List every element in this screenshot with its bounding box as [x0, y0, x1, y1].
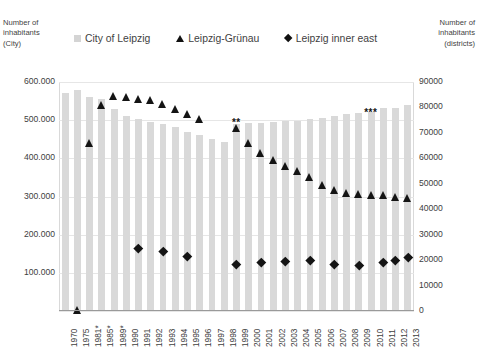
right-axis-tick-label: 90000 — [419, 76, 473, 86]
x-axis-tick-label: 2008 — [350, 329, 360, 347]
x-axis-tick-label: 1997 — [216, 329, 226, 347]
chart-legend: City of LeipzigLeipzig-GrünauLeipzig inn… — [74, 29, 384, 47]
x-axis-tick-label: 2012 — [399, 329, 409, 347]
right-axis-tick-label: 30000 — [419, 229, 473, 239]
x-axis-tick-label: 1993 — [167, 329, 177, 347]
triangle-marker — [330, 186, 338, 194]
left-axis-tick-label: 500.000 — [5, 114, 55, 124]
right-axis-tick-label: 40000 — [419, 203, 473, 213]
bar — [172, 127, 179, 311]
bar — [62, 93, 69, 311]
bar — [98, 99, 105, 311]
triangle-marker — [85, 139, 93, 147]
bar — [282, 121, 289, 311]
triangle-marker — [158, 100, 166, 108]
x-axis-tick-label: 2006 — [326, 329, 336, 347]
right-axis-tick-label: 80000 — [419, 101, 473, 111]
x-axis-tick-label: 2010 — [375, 329, 385, 347]
triangle-marker — [183, 110, 191, 118]
bar — [160, 124, 167, 311]
bar — [404, 105, 411, 311]
x-axis-tick-label: 2003 — [289, 329, 299, 347]
left-axis-tick-label: 200.000 — [5, 229, 55, 239]
chart-container: Number of inhabitants (City) Number of i… — [0, 0, 477, 350]
plot-area: ***** — [59, 82, 414, 311]
left-axis-ticks: 600.000500.000400.000300.000200.000100.0… — [0, 0, 55, 350]
triangle-marker — [122, 93, 130, 101]
legend-item[interactable]: Leipzig-Grünau — [176, 33, 259, 44]
right-axis-tick-label: 50000 — [419, 178, 473, 188]
x-axis-tick-label: 2011 — [387, 329, 397, 347]
bar — [147, 122, 154, 311]
left-axis-tick-label: 600.000 — [5, 76, 55, 86]
x-axis-tick-label: 2005 — [313, 329, 323, 347]
bar — [245, 123, 252, 311]
x-axis-tick-label: 1999 — [240, 329, 250, 347]
bar — [343, 114, 350, 311]
x-axis-tick-label: 1992 — [154, 329, 164, 347]
triangle-marker — [354, 190, 362, 198]
bar — [135, 119, 142, 311]
right-axis-tick-label: 0 — [419, 305, 473, 315]
x-axis-tick-label: 1991 — [142, 329, 152, 347]
bar — [331, 116, 338, 311]
x-axis-tick-label: 1985* — [105, 325, 115, 347]
legend-item[interactable]: Leipzig inner east — [285, 33, 377, 44]
bar — [111, 109, 118, 311]
triangle-marker — [146, 96, 154, 104]
bar — [270, 122, 277, 311]
bar — [221, 142, 228, 311]
x-axis-tick-label: 1998 — [228, 329, 238, 347]
legend-item-label: Leipzig-Grünau — [188, 33, 259, 44]
gridline — [59, 82, 414, 83]
bar — [196, 135, 203, 311]
triangle-marker — [134, 95, 142, 103]
bar — [74, 90, 81, 311]
right-axis-tick-label: 20000 — [419, 254, 473, 264]
right-axis-ticks: 9000080000700006000050000400003000020000… — [419, 0, 475, 350]
footnote-marker: *** — [364, 107, 377, 118]
x-axis-tick-label: 2001 — [264, 329, 274, 347]
triangle-marker — [318, 181, 326, 189]
triangle-marker — [244, 139, 252, 147]
bar — [355, 113, 362, 311]
x-axis-tick-label: 1989* — [118, 325, 128, 347]
x-axis-tick-label: 2013 — [411, 329, 421, 347]
x-axis-tick-label: 2000 — [252, 329, 262, 347]
triangle-marker — [171, 105, 179, 113]
right-axis-tick-label: 60000 — [419, 152, 473, 162]
triangle-marker — [305, 173, 313, 181]
triangle-marker — [269, 156, 277, 164]
x-axis-tick-label: 1970 — [69, 329, 79, 347]
bar — [184, 132, 191, 311]
x-axis-tick-label: 2007 — [338, 329, 348, 347]
bar — [319, 118, 326, 311]
bar — [86, 97, 93, 311]
x-axis-line — [59, 310, 414, 311]
triangle-marker — [403, 194, 411, 202]
left-axis-tick-label: 400.000 — [5, 152, 55, 162]
legend-item-label: City of Leipzig — [85, 33, 150, 44]
triangle-marker — [379, 191, 387, 199]
right-axis-tick-label: 70000 — [419, 127, 473, 137]
x-axis-tick-label: 2009 — [362, 329, 372, 347]
triangle-swatch-icon — [176, 35, 184, 42]
x-axis-tick-label: 2002 — [277, 329, 287, 347]
triangle-marker — [281, 162, 289, 170]
triangle-marker — [293, 167, 301, 175]
x-axis-tick-label: 1990 — [130, 329, 140, 347]
square-swatch-icon — [74, 35, 81, 42]
triangle-marker — [97, 101, 105, 109]
legend-item[interactable]: City of Leipzig — [74, 33, 150, 44]
x-axis-tick-label: 1996 — [203, 329, 213, 347]
diamond-swatch-icon — [284, 33, 293, 42]
x-axis-ticks: 197019751981*1985*1989*19901991199219931… — [59, 313, 414, 350]
legend-item-label: Leipzig inner east — [296, 33, 377, 44]
footnote-marker: ** — [232, 117, 241, 128]
triangle-marker — [109, 92, 117, 100]
triangle-marker — [367, 191, 375, 199]
bar — [307, 119, 314, 311]
triangle-marker — [342, 189, 350, 197]
left-axis-tick-label: 100.000 — [5, 267, 55, 277]
bar — [294, 121, 301, 311]
